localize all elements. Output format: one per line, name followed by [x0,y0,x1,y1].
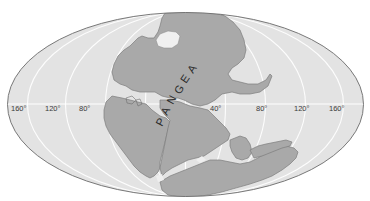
lon-label-w120: 120° [45,104,61,113]
lon-label-e40: 40° [210,104,221,113]
pangea-map: 160° 120° 80° 40° 80° 120° 160° P A N G … [0,0,370,201]
lon-label-e80: 80° [256,104,267,113]
lon-label-e160: 160° [329,104,345,113]
lon-label-w80: 80° [79,104,90,113]
lon-label-w160: 160° [11,104,27,113]
lon-label-e120: 120° [294,104,310,113]
